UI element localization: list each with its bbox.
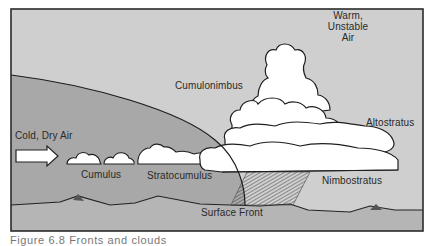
warm-air-label-line-3: Air: [318, 32, 378, 43]
warm-air-label: Warm, Unstable Air: [318, 10, 378, 43]
warm-air-label-line-1: Warm,: [318, 10, 378, 21]
figure-caption: Figure 6.8 Fronts and clouds: [10, 234, 167, 246]
surface-front-label: Surface Front: [201, 207, 263, 218]
nimbostratus-label: Nimbostratus: [322, 175, 382, 186]
cumulonimbus-label: Cumulonimbus: [175, 80, 243, 91]
cumulus-label: Cumulus: [81, 169, 121, 180]
stratocumulus-label: Stratocumulus: [147, 170, 212, 181]
cold-air-label: Cold, Dry Air: [15, 130, 72, 141]
warm-air-label-line-2: Unstable: [318, 21, 378, 32]
altostratus-label: Altostratus: [366, 117, 414, 128]
